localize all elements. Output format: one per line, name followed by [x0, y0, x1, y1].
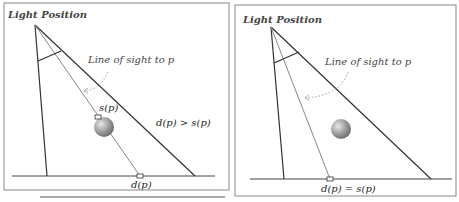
- frustum-left-edge: [35, 25, 47, 176]
- right-panel-frame: [235, 5, 456, 196]
- los-label-left: Line of sight to p: [88, 54, 174, 65]
- sample-marker-s: [95, 115, 101, 119]
- light-position-label-right: Light Position: [243, 14, 322, 25]
- d-label: d(p): [131, 179, 152, 190]
- frustum-left-edge: [271, 27, 284, 179]
- left-panel-frame: [4, 3, 229, 190]
- sphere-occluder: [94, 117, 114, 137]
- sightline: [271, 27, 330, 179]
- relation-right: d(p) = s(p): [321, 183, 376, 194]
- shadow-map-diagram: [0, 0, 459, 202]
- left-panel: [4, 3, 229, 190]
- sightline: [35, 25, 140, 176]
- near-plane: [274, 52, 299, 63]
- relation-left: d(p) > s(p): [156, 117, 211, 128]
- frustum-right-edge: [35, 25, 195, 176]
- frustum-right-edge: [271, 27, 431, 179]
- s-label: s(p): [99, 102, 118, 113]
- sample-marker-ds: [327, 177, 333, 181]
- right-panel: [235, 5, 456, 196]
- sample-marker-d: [137, 174, 143, 178]
- sphere-occluder: [331, 119, 351, 139]
- near-plane: [38, 51, 61, 61]
- light-position-label-left: Light Position: [8, 9, 87, 20]
- los-label-right: Line of sight to p: [325, 56, 411, 67]
